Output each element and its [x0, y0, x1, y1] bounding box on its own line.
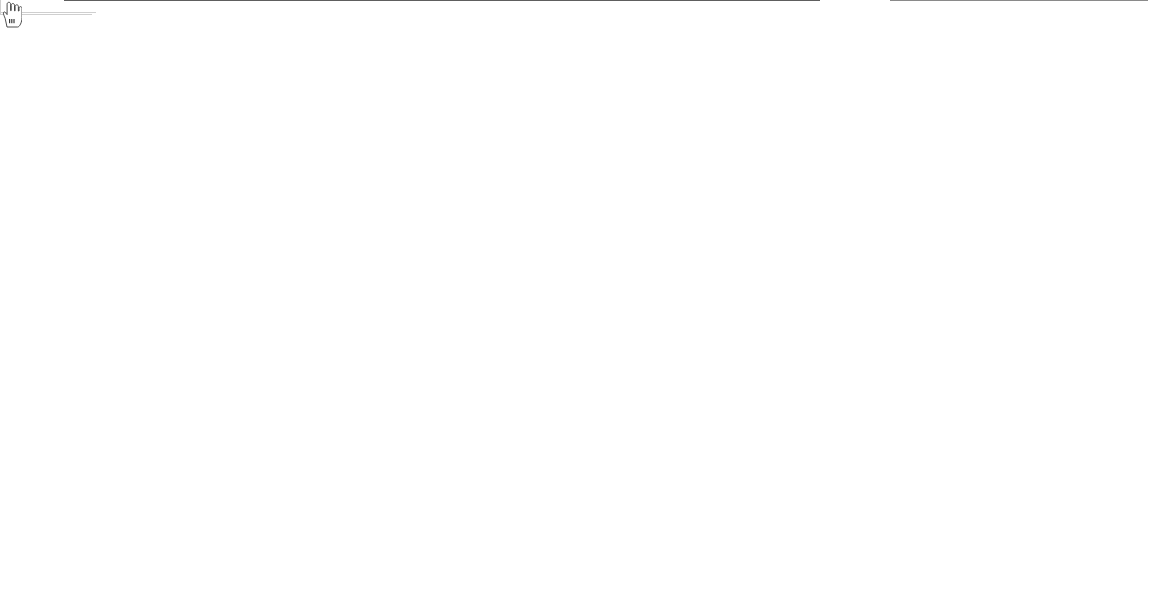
bar-plot-area	[64, 140, 824, 565]
y-axis	[0, 140, 64, 565]
industry-average-line	[64, 0, 820, 1]
detail-company-header	[920, 18, 929, 36]
chart-canvas	[0, 0, 1175, 594]
detail-panel	[890, 0, 1175, 594]
detail-industry-average-line	[890, 0, 1148, 1]
pointing-hand-cursor	[0, 0, 22, 30]
detail-scatter-plot	[890, 140, 1175, 570]
x-axis-ticker-labels	[64, 0, 864, 140]
